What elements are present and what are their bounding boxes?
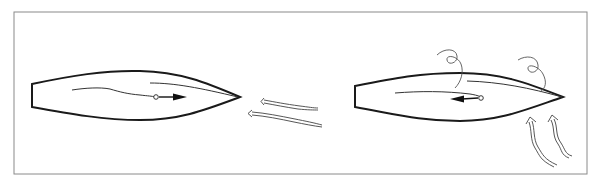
eddy-swirl-icon xyxy=(437,50,462,88)
right-boat xyxy=(355,50,563,121)
motion-arrow-head-icon xyxy=(173,94,187,101)
motion-arrow-shaft xyxy=(462,98,478,99)
wake-line xyxy=(395,92,481,97)
motion-arrow-head-icon xyxy=(450,96,464,103)
eddy-swirl-icon xyxy=(518,57,545,92)
flow-arrows-left xyxy=(248,98,322,127)
hull-outline xyxy=(32,71,240,120)
left-boat xyxy=(32,71,240,120)
figure-frame xyxy=(14,12,587,174)
diagram-figure xyxy=(0,0,599,185)
flow-arrows-right xyxy=(526,115,572,167)
pivot-point-icon xyxy=(479,96,484,101)
pivot-point-icon xyxy=(154,95,159,100)
wake-line-upper xyxy=(467,81,562,97)
wake-line xyxy=(72,88,155,97)
